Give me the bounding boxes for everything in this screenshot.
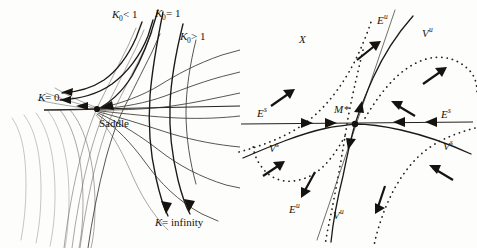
k0-equal-relation: = 1	[166, 7, 180, 19]
k0-less-relation: < 1	[123, 8, 137, 20]
eu-bottom-base: E	[288, 203, 296, 215]
arrow-right-inward	[391, 101, 415, 116]
label-fixed-point: M *	[333, 103, 350, 115]
label-k-infinity: K = infinity	[154, 216, 204, 228]
label-eu-top: E u	[376, 12, 388, 26]
label-es-right: E s	[440, 106, 451, 120]
arrow-right-lower-inward	[429, 165, 453, 180]
es-left-superscript: s	[264, 105, 267, 114]
label-vs-left: V s	[269, 140, 279, 154]
flow-direction-arrows	[263, 41, 453, 214]
es-right-base: E	[440, 108, 448, 120]
fixed-point-star: *	[344, 103, 350, 115]
k0-greater-relation: > 1	[191, 30, 205, 42]
orbit-dotted-along-unstable	[325, 50, 363, 246]
label-k0-equal-one: K 0 = 1	[154, 7, 180, 22]
vs-left-superscript: s	[276, 140, 279, 149]
left-panel: K 0 < 1 K 0 = 1 K 0 > 1 K = 0 Saddle K	[0, 0, 240, 248]
label-state-space: X	[298, 33, 307, 45]
vu-bottom-superscript: u	[340, 207, 344, 216]
right-panel-canvas: X M * E u V u E s E s V	[237, 0, 477, 248]
saddle-point-marker	[94, 106, 100, 112]
orbit-dotted-lower-right	[374, 128, 475, 246]
label-k0-greater-than-one: K 0 > 1	[179, 30, 205, 45]
arrow-lower-mid-outward	[375, 186, 385, 214]
k-infinity-arrowheads	[161, 199, 195, 214]
vu-top-superscript: u	[429, 25, 433, 34]
fixed-point-marker	[352, 121, 358, 127]
es-right-superscript: s	[448, 106, 451, 115]
orbit-dotted-upper-right	[365, 57, 477, 118]
k-infinity-relation: = infinity	[162, 216, 204, 228]
label-vu-top: V u	[422, 25, 433, 39]
k-zero-relation: = 0	[45, 91, 60, 103]
arrow-upper-right-outer	[423, 67, 447, 84]
lower-left-contour-fan	[12, 110, 95, 248]
saddle-hyperbola-trajectories	[60, 10, 158, 110]
fixed-point-base: M	[333, 103, 344, 115]
arrow-upper-mid	[357, 41, 381, 60]
arrow-upper-left-outer	[271, 89, 295, 106]
k0-less-than-one-family	[64, 28, 160, 248]
left-panel-canvas: K 0 < 1 K 0 = 1 K 0 > 1 K = 0 Saddle K	[0, 0, 240, 248]
figure-root: K 0 < 1 K 0 = 1 K 0 > 1 K = 0 Saddle K	[0, 0, 477, 248]
label-saddle: Saddle	[99, 117, 129, 129]
es-left-base: E	[256, 107, 264, 119]
arrow-lower-left-outward	[301, 172, 315, 198]
eu-bottom-superscript: u	[296, 201, 300, 210]
label-vs-right: V s	[443, 138, 453, 152]
label-k-zero: K = 0	[37, 91, 60, 103]
eu-top-base: E	[376, 14, 384, 26]
label-vu-bottom: V u	[333, 207, 344, 221]
vs-right-superscript: s	[450, 138, 453, 147]
label-es-left: E s	[256, 105, 267, 119]
arrow-lower-left-inward	[263, 161, 285, 176]
label-k0-less-than-one: K 0 < 1	[111, 8, 137, 23]
label-eu-bottom: E u	[288, 201, 300, 215]
right-panel: X M * E u V u E s E s V	[237, 0, 477, 248]
eu-top-superscript: u	[384, 12, 388, 21]
